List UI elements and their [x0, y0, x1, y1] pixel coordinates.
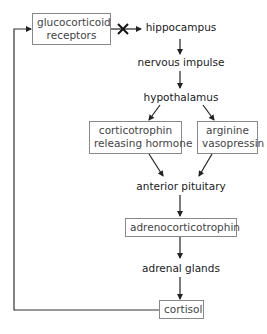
arrow-hypothalamus-crh [149, 105, 160, 120]
node-anterior-pituitary: anterior pituitary [130, 180, 232, 193]
node-label-line1: arginine [202, 124, 253, 137]
node-label: hypothalamus [144, 91, 219, 103]
blocked-arrow [110, 24, 141, 34]
node-crh: corticotrophin releasing hormone [89, 121, 182, 154]
node-label-line2: vasopressin [202, 137, 253, 150]
node-label: anterior pituitary [136, 180, 225, 192]
node-label: hippocampus [146, 21, 217, 33]
node-cortisol: cortisol [159, 300, 204, 319]
node-glucocorticoid-receptors: glucocorticoid receptors [32, 13, 111, 45]
node-label-line2: releasing hormone [94, 137, 177, 150]
node-label-line2: receptors [37, 29, 106, 42]
node-label-line1: glucocorticoid [37, 16, 106, 29]
node-adrenal-glands: adrenal glands [138, 262, 224, 275]
node-acth: adrenocorticotrophin [125, 218, 237, 237]
arrow-crh-pituitary [149, 154, 163, 176]
node-label: adrenocorticotrophin [130, 221, 240, 233]
diagram-connectors [0, 0, 267, 334]
node-hippocampus: hippocampus [144, 21, 218, 34]
node-label: adrenal glands [142, 262, 220, 274]
arrow-avp-pituitary [199, 154, 212, 176]
node-label-line1: corticotrophin [94, 124, 177, 137]
node-avp: arginine vasopressin [197, 121, 258, 154]
node-nervous-impulse: nervous impulse [136, 56, 226, 69]
node-label: cortisol [164, 303, 202, 315]
node-hypothalamus: hypothalamus [140, 91, 222, 104]
node-label: nervous impulse [138, 56, 225, 68]
arrow-hypothalamus-avp [203, 105, 214, 120]
